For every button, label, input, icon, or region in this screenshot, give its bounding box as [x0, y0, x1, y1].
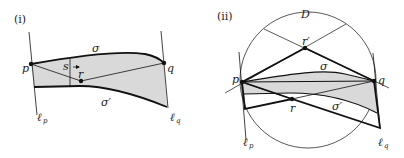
label-s: s [63, 60, 69, 73]
label-q: q [378, 74, 385, 87]
label-p: p [232, 73, 239, 86]
label-p: p [22, 62, 29, 75]
panel-ii-label: (ii) [217, 10, 233, 23]
point-p [29, 62, 33, 66]
panel-i-label: (i) [14, 13, 26, 26]
point-r [290, 97, 294, 101]
label-lq: ℓ [170, 111, 175, 124]
label-lp: ℓ [243, 136, 248, 149]
label-lp-sub: p [43, 117, 48, 125]
point-p [240, 80, 244, 84]
label-d: D [300, 8, 310, 21]
label-sigma: σ [92, 42, 100, 55]
label-sigma-prime: σ′ [332, 100, 343, 113]
label-lq: ℓ [378, 136, 383, 149]
shaded-region [242, 72, 377, 113]
label-q: q [167, 62, 174, 75]
label-r: r [290, 102, 296, 115]
line-lp [239, 52, 246, 140]
panel-ii: (ii) D p q r′ r [217, 8, 389, 150]
label-sigma-prime: σ′ [101, 96, 112, 109]
label-r: r [78, 68, 84, 81]
label-lq-sub: q [384, 142, 389, 150]
label-r-prime: r′ [302, 35, 310, 48]
figure: (i) s p q r σ σ′ ℓ p ℓ q [0, 0, 404, 158]
label-lp-sub: p [249, 142, 254, 150]
label-sigma: σ [320, 60, 328, 73]
label-lq-sub: q [176, 117, 181, 125]
point-q [162, 61, 166, 65]
point-q [372, 79, 376, 83]
panel-i: (i) s p q r σ σ′ ℓ p ℓ q [14, 13, 181, 125]
label-lp: ℓ [37, 111, 42, 124]
